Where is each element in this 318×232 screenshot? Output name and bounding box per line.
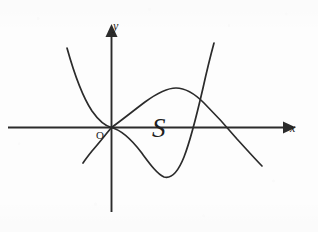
origin-label: O <box>96 129 104 141</box>
x-axis-label: x <box>289 121 296 135</box>
math-figure: x y O S <box>0 0 318 232</box>
y-axis-label: y <box>112 19 119 33</box>
region-label-s: S <box>152 113 166 143</box>
graph-canvas: x y O S <box>0 0 318 232</box>
curve-steep-cubic <box>67 43 214 177</box>
